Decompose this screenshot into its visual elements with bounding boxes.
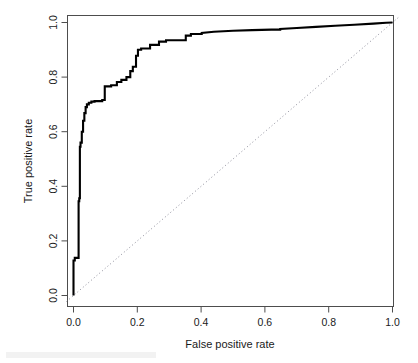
- x-axis-ticks: [74, 307, 393, 313]
- x-tick-label-2: 0.4: [194, 316, 209, 328]
- x-tick-label-0: 0.0: [66, 316, 81, 328]
- y-tick-label-0: 0.0: [47, 288, 59, 303]
- y-tick-label-4: 0.8: [47, 70, 59, 85]
- y-tick-label-3: 0.6: [47, 124, 59, 139]
- roc-chart: 0.0 0.2 0.4 0.6 0.8 1.0 0.0 0.2 0.4 0.6 …: [0, 0, 418, 363]
- y-tick-label-2: 0.4: [47, 179, 59, 194]
- x-tick-label-1: 0.2: [130, 316, 145, 328]
- y-tick-label-1: 0.2: [47, 233, 59, 248]
- plot-frame: [68, 16, 394, 307]
- y-axis-tick-labels: 0.0 0.2 0.4 0.6 0.8 1.0: [47, 15, 59, 303]
- x-tick-label-4: 0.8: [321, 316, 336, 328]
- chance-diagonal-line: [66, 16, 399, 301]
- y-axis-title: True positive rate: [22, 119, 34, 204]
- x-tick-label-5: 1.0: [385, 316, 400, 328]
- x-axis-title: False positive rate: [185, 338, 274, 350]
- y-tick-label-5: 1.0: [47, 15, 59, 30]
- x-tick-label-3: 0.6: [258, 316, 273, 328]
- page-scan-artifact: [6, 352, 156, 358]
- y-axis-ticks: [62, 23, 68, 296]
- x-axis-tick-labels: 0.0 0.2 0.4 0.6 0.8 1.0: [66, 316, 400, 328]
